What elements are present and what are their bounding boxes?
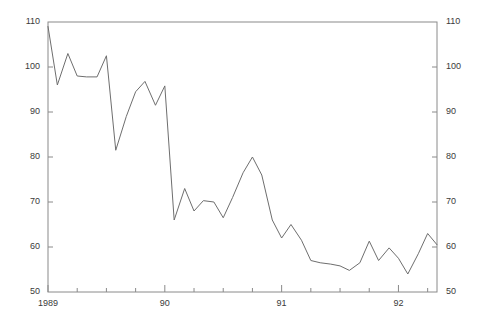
y-axis-tick-label-left: 110 [8,17,40,26]
chart-plot-area [0,0,490,325]
x-axis-tick-label: 91 [262,299,302,308]
y-axis-tick-label-right: 110 [446,17,478,26]
y-axis-tick-label-right: 100 [446,62,478,71]
y-axis-tick-label-right: 80 [446,152,478,161]
x-axis-tick-label: 90 [145,299,185,308]
x-axis-tick-label: 1989 [28,299,68,308]
y-axis-tick-label-left: 50 [8,287,40,296]
plot-frame [48,22,437,292]
y-axis-tick-label-left: 90 [8,107,40,116]
x-axis-tick-label: 92 [378,299,418,308]
y-axis-tick-label-right: 60 [446,242,478,251]
y-axis-tick-label-right: 90 [446,107,478,116]
y-axis-tick-label-left: 80 [8,152,40,161]
line-chart: 5060708090100110 5060708090100110 198990… [0,0,490,325]
y-axis-tick-label-left: 70 [8,197,40,206]
y-axis-tick-label-right: 70 [446,197,478,206]
y-axis-tick-label-left: 100 [8,62,40,71]
y-axis-tick-label-left: 60 [8,242,40,251]
y-axis-tick-label-right: 50 [446,287,478,296]
